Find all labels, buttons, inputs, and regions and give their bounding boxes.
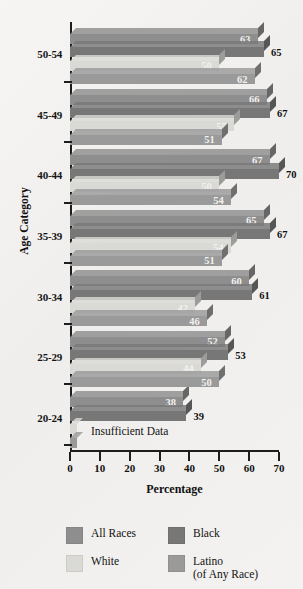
bar-side [186,399,192,415]
chart-container: 3839Insufficient Data5253445060614246656… [0,0,303,589]
bar-value-label: 62 [237,75,248,85]
bar-side [270,96,276,112]
x-axis-tick [99,452,101,461]
y-axis-category-label: 25-29 [8,351,62,363]
bar-side [264,35,270,51]
legend-label: White [91,555,119,568]
bar-value-label: 65 [271,48,282,58]
x-axis-tick [248,452,250,461]
bar-value-label: 51 [204,135,215,145]
bar-latino-of-any-race-25-29 [70,377,219,387]
legend-swatch-icon [168,555,185,572]
bar-face [70,438,77,448]
bar-value-label: 51 [204,256,215,266]
x-axis-tick-label: 30 [148,462,172,474]
bar-face [70,135,222,145]
bar-side [252,278,258,294]
bar-side [270,217,276,233]
legend-label: Black [193,527,220,540]
legend-swatch-icon [66,555,83,572]
legend-swatch-icon [168,527,185,544]
x-axis-tick-label: 0 [58,462,82,474]
legend-item-all-races[interactable]: All Races [66,527,136,544]
x-axis-tick [188,452,190,461]
y-axis-category-label: 35-39 [8,230,62,242]
y-axis-tick [64,444,72,446]
x-axis-title: Percentage [70,482,279,497]
bar-value-label: 70 [286,170,297,180]
y-axis-category-label: 40-44 [8,169,62,181]
bar-value-label: 54 [213,196,224,206]
legend-item-black[interactable]: Black [168,527,220,544]
bar-face [70,195,231,205]
legend-label: Latino(of Any Race) [193,555,258,581]
bar-side [270,143,276,159]
legend-item-latino[interactable]: Latino(of Any Race) [168,555,258,581]
bar-side [249,264,255,280]
bar-value-label: 67 [277,230,288,240]
x-axis-tick [129,452,131,461]
y-axis-category-label: 20-24 [8,412,62,424]
bar-face [70,411,186,421]
bar-face [70,74,255,84]
bar-side [279,157,285,173]
y-axis-tick [64,202,72,204]
bar-side [255,62,261,78]
bar-side [183,385,189,401]
y-axis-tick [64,383,72,385]
bar-value-label: 39 [193,412,204,422]
x-axis-tick [218,452,220,461]
plot-area: 3839Insufficient Data5253445060614246656… [0,0,303,470]
y-axis-title: Age Category [18,166,30,276]
bar-value-label: 61 [259,291,270,301]
x-axis-tick-label: 60 [237,462,261,474]
bar-side [258,22,264,38]
x-axis-tick [278,452,280,461]
bar-side [225,325,231,341]
bar-side [207,304,213,320]
bar-side [219,365,225,381]
y-axis-category-label: 50-54 [8,48,62,60]
bar-stub-no-data [70,438,77,448]
bar-value-label: 67 [277,109,288,119]
legend-swatch-icon [66,527,83,544]
bar-value-label: 53 [235,351,246,361]
bar-face [70,256,222,266]
legend-item-white[interactable]: White [66,555,119,572]
x-axis-tick-label: 20 [118,462,142,474]
bar-face [70,377,219,387]
x-axis-tick-label: 10 [88,462,112,474]
legend-label: All Races [91,527,136,540]
x-axis-tick [159,452,161,461]
x-axis-tick-label: 70 [267,462,291,474]
bar-side [231,183,237,199]
bar-latino-of-any-race-30-34 [70,316,207,326]
y-axis-category-label: 45-49 [8,109,62,121]
legend-sublabel: (of Any Race) [193,568,258,581]
bar-face [70,316,207,326]
bar-latino-of-any-race-40-44 [70,195,231,205]
bar-value-label: 50 [201,378,212,388]
y-axis-tick [64,262,72,264]
bar-side [228,338,234,354]
bar-latino-of-any-race-35-39 [70,256,222,266]
bar-latino-of-any-race-50-54 [70,74,255,84]
x-axis-tick [69,452,71,461]
bar-latino-of-any-race-45-49 [70,135,222,145]
x-axis-tick-label: 50 [207,462,231,474]
chart-legend: All RacesBlackWhiteLatino(of Any Race) [0,505,303,585]
y-axis-tick [64,141,72,143]
y-axis-category-label: 30-34 [8,291,62,303]
insufficient-data-note: Insufficient Data [91,425,168,437]
bar-side [264,204,270,220]
x-axis-tick-label: 40 [177,462,201,474]
y-axis-tick [64,81,72,83]
y-axis-tick [64,323,72,325]
bar-side [267,83,273,99]
bar-value-label: 46 [189,317,200,327]
bar-black-20-24 [70,411,186,421]
